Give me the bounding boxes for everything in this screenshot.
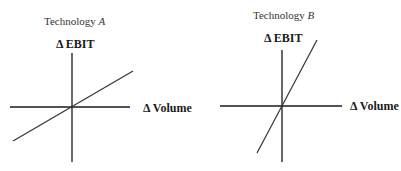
chart-b-y-axis-label: Δ EBIT (264, 31, 303, 45)
chart-a-title: Technology A (44, 15, 106, 27)
chart-a-data-line (13, 71, 133, 141)
diagram-canvas: Technology A Δ EBIT Δ Volume Technology … (0, 0, 401, 171)
chart-b-x-axis-label: Δ Volume (350, 99, 399, 113)
chart-b-data-line (257, 40, 317, 153)
chart-technology-b: Technology B Δ EBIT Δ Volume (220, 9, 399, 162)
chart-b-title: Technology B (253, 9, 315, 21)
chart-a-y-axis-label: Δ EBIT (56, 37, 95, 51)
chart-a-x-axis-label: Δ Volume (143, 101, 192, 115)
chart-technology-a: Technology A Δ EBIT Δ Volume (10, 15, 192, 162)
